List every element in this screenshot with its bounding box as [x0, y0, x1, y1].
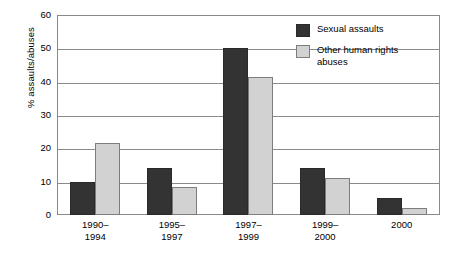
bar-group — [134, 15, 211, 215]
bar-group — [57, 15, 134, 215]
bar — [325, 178, 350, 215]
y-tick-label-10: 10 — [11, 177, 51, 187]
bar — [300, 168, 325, 215]
legend-item: Sexual assaults — [296, 23, 398, 37]
legend-item: Other human rights abuses — [296, 44, 398, 67]
x-tick-line1: 2000 — [357, 219, 447, 231]
legend-label: Other human rights abuses — [317, 44, 398, 67]
bar-chart-figure: % assaults/abuses 6050403020100 1990–199… — [0, 0, 452, 266]
x-tick-line2: 2000 — [280, 231, 370, 243]
legend-swatch-light — [296, 45, 310, 58]
y-tick-label-60: 60 — [11, 10, 51, 20]
y-tick-label-20: 20 — [11, 143, 51, 153]
y-tick-label-50: 50 — [11, 43, 51, 53]
bar — [95, 143, 120, 215]
y-tick-label-40: 40 — [11, 77, 51, 87]
bar — [147, 168, 172, 215]
chart-legend: Sexual assaultsOther human rights abuses — [296, 23, 398, 74]
bar — [172, 187, 197, 215]
bar — [223, 48, 248, 215]
y-tick-label-0: 0 — [11, 210, 51, 220]
bar — [248, 77, 273, 215]
y-tick-label-30: 30 — [11, 110, 51, 120]
bar — [402, 208, 427, 215]
bar-group — [210, 15, 287, 215]
legend-swatch-dark — [296, 24, 310, 37]
legend-label: Sexual assaults — [317, 23, 384, 35]
x-tick-label: 2000 — [357, 219, 447, 231]
bar — [377, 198, 402, 215]
bar — [70, 182, 95, 215]
